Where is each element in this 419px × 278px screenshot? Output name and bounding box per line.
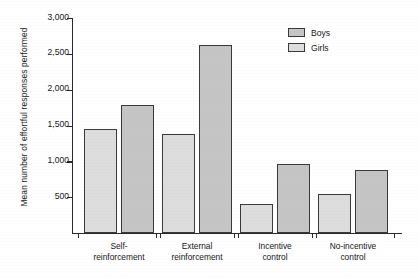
x-tick xyxy=(316,233,317,238)
category-label-4: No-incentivecontrol xyxy=(294,241,412,262)
x-tick xyxy=(238,233,239,238)
bar-girls-group-1 xyxy=(121,105,154,233)
category-label-line: control xyxy=(294,252,412,263)
x-axis-line xyxy=(72,233,402,234)
bar-boys-group-3 xyxy=(240,204,273,233)
legend-swatch-girls xyxy=(288,43,305,52)
x-tick xyxy=(156,233,157,238)
legend-label-boys: Boys xyxy=(311,28,330,38)
bar-boys-group-2 xyxy=(162,134,195,233)
y-tick-label: 2,000 xyxy=(47,83,69,93)
x-tick xyxy=(234,233,235,238)
y-tick-label: 1,500 xyxy=(47,119,69,129)
chart-legend: Boys Girls xyxy=(288,26,330,56)
bar-chart-figure: Mean number of effortful responses perfo… xyxy=(0,0,419,278)
y-axis-title: Mean number of effortful responses perfo… xyxy=(19,7,29,227)
x-tick xyxy=(78,233,79,238)
bar-boys-group-1 xyxy=(84,129,117,233)
x-tick xyxy=(160,233,161,238)
x-tick xyxy=(394,233,395,238)
y-tick-label: 1,000 xyxy=(47,155,69,165)
legend-label-girls: Girls xyxy=(311,43,329,53)
legend-item-boys: Boys xyxy=(288,26,330,39)
plot-area: 5001,0001,5002,0002,5003,000 Self-reinfo… xyxy=(72,18,402,233)
bar-girls-group-3 xyxy=(277,164,310,233)
legend-swatch-boys xyxy=(288,28,305,37)
legend-item-girls: Girls xyxy=(288,41,330,54)
bar-girls-group-2 xyxy=(199,45,232,233)
bar-boys-group-4 xyxy=(318,194,351,233)
x-tick xyxy=(312,233,313,238)
y-tick-label: 500 xyxy=(55,191,69,201)
category-label-line: No-incentive xyxy=(294,241,412,252)
bar-girls-group-4 xyxy=(355,170,388,233)
y-tick-label: 3,000 xyxy=(47,12,69,22)
y-tick-label: 2,500 xyxy=(47,47,69,57)
